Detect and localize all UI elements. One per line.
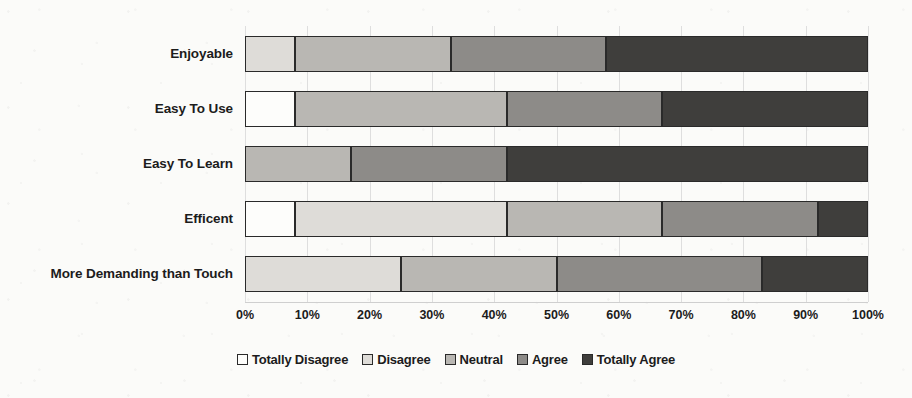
legend-item[interactable]: Neutral	[445, 352, 503, 367]
bar-segment	[507, 146, 868, 182]
bar-segment	[762, 256, 868, 292]
x-axis-tick-label: 80%	[731, 308, 756, 322]
x-axis-tick-label: 0%	[236, 308, 254, 322]
bar-segment	[557, 256, 763, 292]
legend-swatch-icon	[445, 354, 456, 365]
bar-segment	[295, 201, 507, 237]
x-axis-tick-label: 10%	[295, 308, 320, 322]
x-axis-tick-label: 60%	[606, 308, 631, 322]
bar-segment	[351, 146, 507, 182]
x-axis-tick-label: 20%	[357, 308, 382, 322]
legend-swatch-icon	[237, 354, 248, 365]
x-axis-line	[245, 302, 868, 303]
x-axis-tick-label: 50%	[544, 308, 569, 322]
bar-category-label: Enjoyable	[170, 36, 233, 72]
legend-label: Totally Disagree	[252, 352, 348, 367]
bar-row: Enjoyable	[245, 36, 868, 72]
x-axis-tick-labels: 0%10%20%30%40%50%60%70%80%90%100%	[245, 308, 868, 326]
bar-category-label: Easy To Use	[155, 91, 233, 127]
legend-swatch-icon	[362, 354, 373, 365]
legend-label: Disagree	[377, 352, 430, 367]
bar-segment	[295, 91, 507, 127]
legend-label: Totally Agree	[597, 352, 675, 367]
bar-segment	[507, 91, 663, 127]
bar-segment	[401, 256, 557, 292]
bar-category-label: Efficent	[184, 201, 233, 237]
bar-category-label: More Demanding than Touch	[51, 256, 234, 292]
bar-segment	[451, 36, 607, 72]
x-axis-tick-label: 40%	[482, 308, 507, 322]
bar-segment	[507, 201, 663, 237]
chart-figure: EnjoyableEasy To UseEasy To LearnEfficen…	[0, 0, 912, 398]
legend-swatch-icon	[582, 354, 593, 365]
gridline	[868, 26, 869, 302]
legend-item[interactable]: Totally Agree	[582, 352, 675, 367]
bar-category-label: Easy To Learn	[143, 146, 233, 182]
bars-layer: EnjoyableEasy To UseEasy To LearnEfficen…	[245, 26, 868, 302]
bar-segment	[295, 36, 451, 72]
legend-item[interactable]: Disagree	[362, 352, 430, 367]
x-axis-tick-label: 90%	[793, 308, 818, 322]
bar-segment	[606, 36, 868, 72]
legend-label: Agree	[532, 352, 568, 367]
legend-item[interactable]: Totally Disagree	[237, 352, 348, 367]
bar-segment	[245, 201, 295, 237]
x-axis-tick-label: 70%	[669, 308, 694, 322]
bar-segment	[245, 146, 351, 182]
bar-segment	[662, 201, 818, 237]
bar-segment	[818, 201, 868, 237]
bar-row: Easy To Use	[245, 91, 868, 127]
legend-label: Neutral	[460, 352, 503, 367]
x-axis-tick-label: 30%	[419, 308, 444, 322]
bar-segment	[245, 256, 401, 292]
legend-item[interactable]: Agree	[517, 352, 568, 367]
bar-row: Efficent	[245, 201, 868, 237]
bar-segment	[245, 36, 295, 72]
bar-segment	[245, 91, 295, 127]
bar-row: More Demanding than Touch	[245, 256, 868, 292]
legend-swatch-icon	[517, 354, 528, 365]
plot-area: EnjoyableEasy To UseEasy To LearnEfficen…	[245, 26, 868, 302]
chart-legend: Totally DisagreeDisagreeNeutralAgreeTota…	[0, 352, 912, 367]
x-axis-tick-label: 100%	[852, 308, 884, 322]
bar-row: Easy To Learn	[245, 146, 868, 182]
bar-segment	[662, 91, 868, 127]
